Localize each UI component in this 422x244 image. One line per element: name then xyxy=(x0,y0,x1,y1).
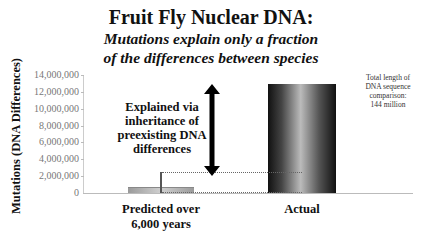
note-line-3: comparison: xyxy=(348,91,422,100)
y-tick-6m: 6,000,000 xyxy=(30,137,79,147)
x-axis-line xyxy=(83,193,413,194)
chart-title: Fruit Fly Nuclear DNA: xyxy=(0,6,422,28)
x-label-predicted: Predicted over 6,000 years xyxy=(106,202,216,232)
y-axis-label: Mutations (DNA Differences) xyxy=(9,58,24,214)
tick-mark xyxy=(81,142,84,143)
y-tick-4m: 4,000,000 xyxy=(30,154,79,164)
y-tick-8m: 8,000,000 xyxy=(30,121,79,131)
actual-bar xyxy=(268,84,336,193)
y-tick-12m: 12,000,000 xyxy=(30,87,79,97)
chart-subtitle: Mutations explain only a fraction of the… xyxy=(0,29,422,67)
note-line-2: DNA sequence xyxy=(348,82,422,91)
subtitle-line-1: Mutations explain only a fraction xyxy=(0,29,422,48)
tick-mark xyxy=(81,109,84,110)
annotation-line-3: preexisting DNA xyxy=(112,128,212,142)
note-line-4: 144 million xyxy=(348,100,422,109)
y-tick-14m: 14,000,000 xyxy=(30,70,79,80)
tick-mark xyxy=(81,126,84,127)
annotation-line-2: inheritance of xyxy=(112,114,212,128)
dotted-line-upper xyxy=(162,172,302,173)
y-tick-0: 0 xyxy=(30,188,79,198)
sequence-length-note: Total length of DNA sequence comparison:… xyxy=(348,73,422,109)
inheritance-annotation: Explained via inheritance of preexisting… xyxy=(112,100,212,156)
annotation-line-4: differences xyxy=(112,142,212,156)
tick-mark xyxy=(81,176,84,177)
tick-mark xyxy=(81,159,84,160)
tick-mark xyxy=(81,92,84,93)
x-label-actual: Actual xyxy=(262,202,342,217)
y-tick-2m: 2,000,000 xyxy=(30,171,79,181)
x-label-predicted-line-1: Predicted over xyxy=(106,202,216,217)
note-line-1: Total length of xyxy=(348,73,422,82)
x-label-predicted-line-2: 6,000 years xyxy=(106,217,216,232)
annotation-line-1: Explained via xyxy=(112,100,212,114)
subtitle-line-2: of the differences between species xyxy=(0,48,422,67)
y-tick-10m: 10,000,000 xyxy=(30,104,79,114)
tick-mark xyxy=(81,75,84,76)
error-bar xyxy=(160,172,162,193)
